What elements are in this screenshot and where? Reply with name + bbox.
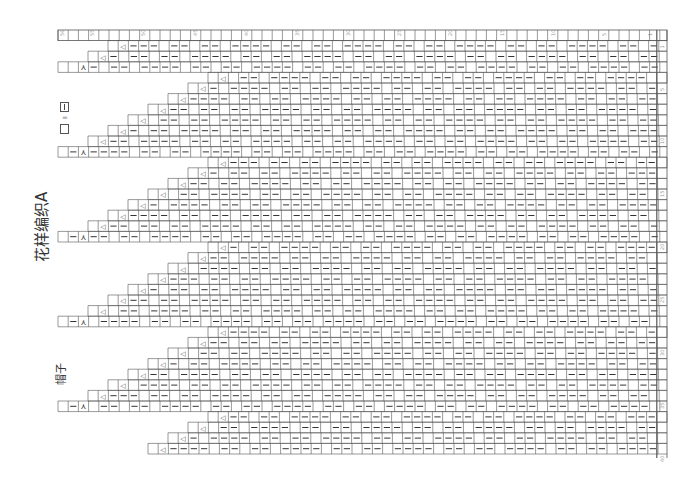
triangle-symbol: ◁: [220, 414, 226, 422]
triangle-symbol: ◁: [200, 340, 206, 348]
row-number: 1: [659, 45, 665, 48]
triangle-symbol: ◁: [120, 128, 126, 136]
triangle-symbol: ◁: [140, 117, 146, 125]
lambda-symbol: ⋏: [81, 402, 87, 411]
chart-title: 花样编织A: [30, 192, 51, 262]
triangle-symbol: ◁: [140, 202, 146, 210]
column-number: 50: [140, 30, 146, 36]
lambda-symbol: ⋏: [81, 233, 87, 242]
triangle-symbol: ◁: [120, 382, 126, 390]
triangle-symbol: ◁: [180, 96, 186, 104]
triangle-symbol: ◁: [160, 446, 166, 454]
triangle-symbol: ◁: [160, 361, 166, 369]
column-number: 10: [550, 30, 556, 36]
triangle-symbol: ◁: [220, 244, 226, 252]
column-number: 25: [396, 30, 402, 36]
row-number: 40: [659, 456, 665, 462]
triangle-symbol: ◁: [140, 372, 146, 380]
lambda-symbol: ⋏: [81, 148, 87, 157]
triangle-symbol: ◁: [160, 107, 166, 115]
triangle-symbol: ◁: [200, 170, 206, 178]
triangle-symbol: ◁: [200, 255, 206, 263]
lambda-symbol: ⋏: [81, 63, 87, 72]
lambda-symbol: ⋏: [81, 318, 87, 327]
triangle-symbol: ◁: [200, 425, 206, 433]
triangle-symbol: ◁: [220, 160, 226, 168]
column-number: 20: [447, 30, 453, 36]
row-number: 10: [659, 138, 665, 144]
column-number: 5: [601, 33, 607, 36]
row-number: 25: [659, 297, 665, 303]
chart-subtitle: 帽子: [52, 363, 68, 385]
triangle-symbol: ◁: [100, 54, 106, 62]
triangle-symbol: ◁: [120, 213, 126, 221]
knitting-chart: 565550454035302520151051◁◁⋏◁◁◁◁◁◁◁⋏◁◁◁◁◁…: [0, 0, 698, 483]
triangle-symbol: ◁: [200, 85, 206, 93]
column-number: 15: [499, 30, 505, 36]
triangle-symbol: ◁: [180, 435, 186, 443]
triangle-symbol: ◁: [140, 287, 146, 295]
column-number: 30: [345, 30, 351, 36]
legend-vertical-bar: [64, 104, 65, 110]
legend-equals: =: [62, 114, 68, 122]
row-number: 15: [659, 191, 665, 197]
triangle-symbol: ◁: [100, 308, 106, 316]
triangle-symbol: ◁: [220, 75, 226, 83]
triangle-symbol: ◁: [160, 276, 166, 284]
triangle-symbol: ◁: [100, 223, 106, 231]
row-number: 30: [659, 350, 665, 356]
triangle-symbol: ◁: [100, 393, 106, 401]
column-number: 35: [294, 30, 300, 36]
column-number: 56: [59, 30, 65, 36]
column-number: 40: [243, 30, 249, 36]
row-number: 35: [659, 403, 665, 409]
row-number: 5: [659, 88, 665, 91]
triangle-symbol: ◁: [220, 329, 226, 337]
triangle-symbol: ◁: [180, 350, 186, 358]
triangle-symbol: ◁: [180, 266, 186, 274]
legend-symbol-blank: [60, 124, 69, 134]
triangle-symbol: ◁: [160, 191, 166, 199]
column-number: 55: [89, 30, 95, 36]
triangle-symbol: ◁: [120, 43, 126, 51]
triangle-symbol: ◁: [100, 138, 106, 146]
column-number: 45: [192, 30, 198, 36]
row-number: 20: [659, 244, 665, 250]
triangle-symbol: ◁: [180, 181, 186, 189]
column-number: 1: [647, 33, 653, 36]
triangle-symbol: ◁: [120, 297, 126, 305]
